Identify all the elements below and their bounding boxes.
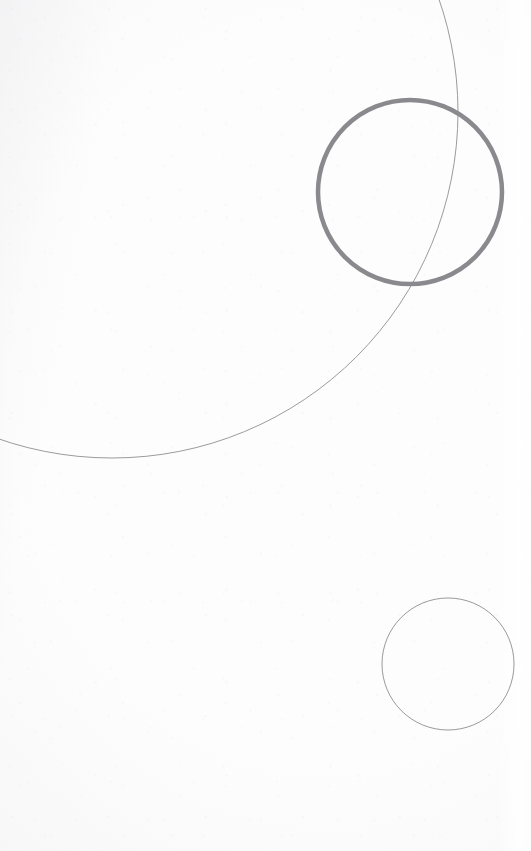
bold-grey-circle [318, 100, 502, 284]
large-thin-arc [0, 0, 458, 458]
drawing-svg [0, 0, 531, 851]
small-thin-circle [382, 598, 514, 730]
artwork-canvas: Three Circles [0, 0, 531, 851]
drawing-layer [0, 0, 531, 851]
